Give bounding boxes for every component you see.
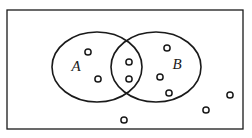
element-dot: [126, 76, 132, 82]
element-dot: [227, 92, 233, 98]
element-dot: [85, 49, 91, 55]
element-dot: [121, 117, 127, 123]
element-dot: [95, 76, 101, 82]
set-b-label: B: [172, 56, 181, 72]
element-dot: [164, 45, 170, 51]
venn-diagram-canvas: A B: [0, 0, 252, 138]
set-a-label: A: [70, 58, 81, 74]
element-dot: [203, 107, 209, 113]
element-dot: [126, 59, 132, 65]
element-dot: [166, 90, 172, 96]
venn-diagram-figure: A B: [0, 0, 252, 138]
element-dot: [157, 74, 163, 80]
